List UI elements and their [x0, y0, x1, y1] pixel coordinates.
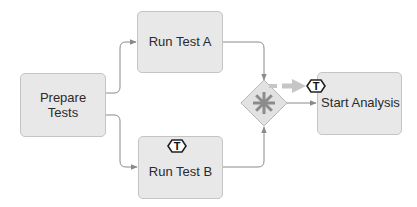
edge-test-b-to-gateway[interactable]: [222, 127, 264, 167]
task-label: Run Test A: [149, 34, 212, 49]
task-label: Run Test B: [149, 164, 212, 179]
task-label: Tests: [48, 105, 78, 120]
edge-prepare-to-test-a[interactable]: [105, 42, 136, 93]
edge-prepare-to-test-b[interactable]: [105, 115, 137, 167]
edge-test-a-to-gateway[interactable]: [222, 42, 264, 80]
token-marker-label: T: [313, 80, 320, 92]
token-marker-icon: T: [306, 79, 326, 93]
task-label: Start Analysis: [321, 95, 400, 110]
task-prepare-tests[interactable]: Prepare Tests: [20, 73, 106, 137]
task-run-test-a[interactable]: Run Test A: [137, 11, 223, 73]
token-marker-icon: T: [167, 139, 187, 153]
complex-gateway[interactable]: [241, 80, 287, 126]
task-label: Prepare: [40, 90, 86, 105]
token-marker-label: T: [174, 140, 181, 152]
task-start-analysis[interactable]: Start Analysis: [317, 72, 402, 135]
asterisk-icon: [253, 92, 275, 114]
